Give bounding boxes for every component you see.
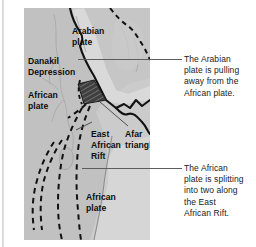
map-panel: Arabian plate Danakil Depression African…: [24, 8, 150, 240]
map-label-arabian-plate: Arabian plate: [72, 26, 104, 48]
page-edge-artifact: [2, 0, 4, 247]
map-label-east-african-rift: East African Rift: [91, 129, 121, 162]
map-label-african-plate-south: African plate: [86, 192, 116, 214]
figure-stage: Arabian plate Danakil Depression African…: [0, 0, 256, 247]
map-label-african-plate-west: African plate: [28, 90, 58, 112]
map-label-danakil-depression: Danakil Depression: [28, 56, 75, 78]
annotation-leader-african: [82, 168, 182, 169]
annotation-leader-arabian: [78, 59, 182, 60]
annotation-arabian-plate: The Arabian plate is pulling away from t…: [184, 54, 256, 99]
map-canvas: Arabian plate Danakil Depression African…: [24, 8, 150, 240]
annotation-african-plate: The African plate is splitting into two …: [184, 163, 256, 219]
map-label-afar-triangle: Afar triangle: [125, 129, 150, 151]
